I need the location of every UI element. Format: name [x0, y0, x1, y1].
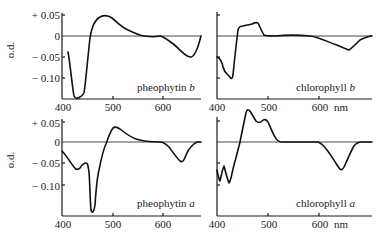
- y-tick-0-top: 0: [55, 30, 61, 42]
- curve-chlorophyll-a: [217, 110, 372, 183]
- x-unit-nm-top: nm: [334, 101, 349, 113]
- panel-chlorophyll-b: chlorophyll b: [217, 12, 372, 99]
- panel-pheophytin-b: pheophytin b: [62, 13, 201, 99]
- y-axis-title-bottom: o.d.: [4, 152, 16, 169]
- y-tick-0-bottom: 0: [55, 136, 61, 148]
- x-tick-500-bottom-right: 500: [261, 218, 278, 230]
- panel-label-chlorophyll-a: chlorophyll a: [296, 197, 355, 209]
- panel-chlorophyll-a: chlorophyll a: [217, 110, 372, 216]
- y-tick-minus-0.05-top: − 0.05: [32, 51, 61, 63]
- x-tick-600-top-right: 600: [312, 101, 329, 113]
- x-tick-400-top-right: 400: [209, 101, 226, 113]
- x-unit-nm-bottom: nm: [334, 218, 349, 230]
- spectra-figure: o.d. + 0.05 0 − 0.05 − 0.10 pheophytin b…: [0, 0, 380, 237]
- panel-label-pheophytin-b: pheophytin b: [137, 81, 195, 93]
- curve-chlorophyll-b: [217, 23, 372, 79]
- x-tick-500-bottom-left: 500: [105, 218, 122, 230]
- panel-pheophytin-a: pheophytin a: [62, 119, 201, 216]
- x-tick-600-top-left: 600: [155, 101, 172, 113]
- panel-label-pheophytin-a: pheophytin a: [137, 197, 195, 209]
- y-tick-plus-0.05-top: + 0.05: [32, 9, 61, 21]
- y-tick-minus-0.10-bottom: − 0.10: [32, 180, 61, 192]
- x-tick-600-bottom-right: 600: [312, 218, 329, 230]
- y-tick-plus-0.05-bottom: + 0.05: [32, 117, 61, 129]
- x-tick-500-top-right: 500: [261, 101, 278, 113]
- y-tick-minus-0.10-top: − 0.10: [32, 72, 61, 84]
- y-tick-minus-0.05-bottom: − 0.05: [32, 157, 61, 169]
- x-tick-400-bottom-left: 400: [55, 218, 72, 230]
- x-tick-400-bottom-right: 400: [209, 218, 226, 230]
- x-tick-500-top-left: 500: [105, 101, 122, 113]
- panel-label-chlorophyll-b: chlorophyll b: [296, 81, 355, 93]
- x-tick-400-top-left: 400: [55, 101, 72, 113]
- y-axis-title-top: o.d.: [4, 42, 16, 59]
- x-tick-600-bottom-left: 600: [155, 218, 172, 230]
